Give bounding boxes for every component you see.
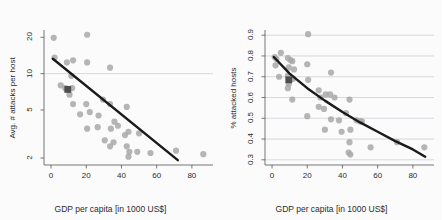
x-tick-label: 60	[152, 171, 161, 180]
y-tick-label: 2	[25, 147, 34, 169]
x-tick-label: 80	[408, 171, 417, 180]
x-tick-label: 60	[373, 171, 382, 180]
y-tick-label: 0.9	[246, 24, 255, 46]
figure-container: 2011 GDP per capita [in 1000 US$] Avg. #…	[0, 0, 443, 220]
y-tick-label: 0.3	[246, 148, 255, 170]
x-tick-label: 20	[303, 171, 312, 180]
y-tick-label: 5	[25, 98, 34, 120]
x-axis-label-right: GDP per capita [in 1000 US$]	[221, 204, 442, 214]
y-tick-label: 0.5	[246, 107, 255, 129]
chart-panel-right: 2011 GDP per capita [in 1000 US$] % atta…	[221, 0, 442, 220]
x-tick-label: 40	[117, 171, 126, 180]
x-tick-label: 0	[270, 171, 274, 180]
y-tick-label: 0.7	[246, 65, 255, 87]
x-axis-label-left: GDP per capita [in 1000 US$]	[0, 204, 221, 214]
x-tick-label: 80	[187, 171, 196, 180]
y-axis-label-right: % attacked hosts	[229, 67, 238, 128]
y-tick-label: 0.6	[246, 86, 255, 108]
x-tick-label: 0	[49, 171, 53, 180]
y-tick-label: 0.4	[246, 128, 255, 150]
x-tick-label: 40	[338, 171, 347, 180]
chart-panel-left: 2011 GDP per capita [in 1000 US$] Avg. #…	[0, 0, 221, 220]
y-tick-label: 0.8	[246, 44, 255, 66]
y-tick-label: 10	[25, 62, 34, 84]
y-tick-label: 20	[25, 26, 34, 48]
x-tick-label: 20	[82, 171, 91, 180]
y-axis-label-left: Avg. # attacks per host	[8, 57, 17, 138]
